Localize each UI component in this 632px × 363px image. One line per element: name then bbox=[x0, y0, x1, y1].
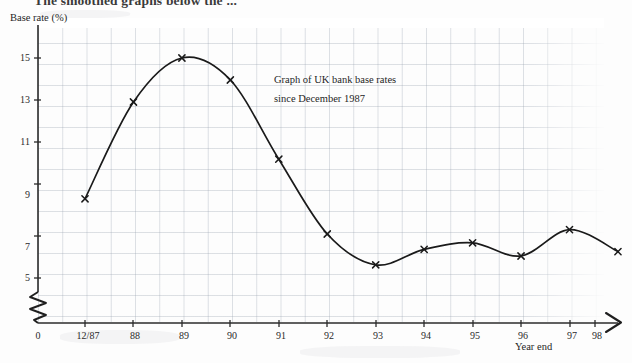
x-tick-label-89: 89 bbox=[179, 330, 189, 341]
x-tick-label-96: 96 bbox=[518, 330, 528, 341]
chart-annotation-line-1: Graph of UK bank base rates bbox=[274, 70, 396, 89]
x-tick-label-90: 90 bbox=[227, 330, 237, 341]
y-tick-label-11: 11 bbox=[8, 136, 30, 147]
y-tick-label-13: 13 bbox=[8, 94, 30, 105]
x-tick-label-88: 88 bbox=[130, 330, 140, 341]
data-point-marker bbox=[276, 156, 282, 162]
data-point-marker bbox=[130, 99, 136, 105]
x-tick-label-97: 97 bbox=[567, 330, 577, 341]
x-tick-label-98: 98 bbox=[592, 330, 602, 341]
y-tick-label-15: 15 bbox=[8, 52, 30, 63]
y-tick-label-5: 5 bbox=[8, 272, 30, 283]
data-point-marker bbox=[324, 231, 330, 237]
chart-canvas: The smoothed graphs below the ... bbox=[0, 0, 632, 363]
data-point-marker bbox=[615, 249, 621, 255]
y-axis-title: Base rate (%) bbox=[10, 12, 67, 23]
data-point-marker bbox=[82, 196, 88, 202]
y-tick-label-9: 9 bbox=[8, 189, 30, 200]
x-tick-label-95: 95 bbox=[470, 330, 480, 341]
data-series-layer bbox=[0, 0, 632, 363]
x-tick-label-94: 94 bbox=[421, 330, 431, 341]
y-tick-label-7: 7 bbox=[8, 241, 30, 252]
chart-annotation: Graph of UK bank base rates since Decemb… bbox=[274, 70, 396, 108]
x-tick-label-91: 91 bbox=[276, 330, 286, 341]
x-tick-label-12-87: 12/87 bbox=[77, 330, 100, 341]
data-point-marker bbox=[227, 77, 233, 83]
x-tick-label-93: 93 bbox=[373, 330, 383, 341]
chart-annotation-line-2: since December 1987 bbox=[274, 89, 396, 108]
x-axis-title: Year end bbox=[515, 341, 552, 352]
x-tick-label-92: 92 bbox=[324, 330, 334, 341]
x-tick-label-0: 0 bbox=[36, 330, 41, 341]
